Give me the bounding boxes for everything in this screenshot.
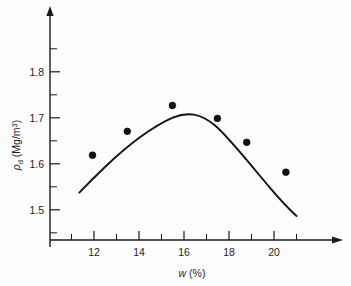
compaction-curve-chart: 1.8 1.7 1.6 1.5 12 14 16 18 20 w (%) [0,0,351,286]
data-point [283,169,290,176]
y-axis-minor-ticks [50,49,57,233]
data-point [214,115,221,122]
x-axis-title-units: (%) [186,267,205,279]
x-axis-title: w (%) [179,267,206,279]
data-point [243,139,250,146]
x-tick-label-14: 14 [133,246,145,258]
data-point [124,128,131,135]
y-axis-title-symbol: ρ [10,164,22,171]
y-axis-title-units-open: (Mg/m [10,127,22,160]
x-tick-label-18: 18 [223,246,235,258]
x-tick-label-16: 16 [178,246,190,258]
data-point [169,102,176,109]
fitted-curve-path [79,114,296,216]
y-axis-title: ρd (Mg/m3) [10,120,25,172]
data-point [89,152,96,159]
y-tick-label-1-6: 1.6 [29,158,44,170]
y-axis-title-units-close: ) [10,120,22,124]
x-axis-major-ticks [94,231,274,240]
figure-container: 1.8 1.7 1.6 1.5 12 14 16 18 20 w (%) [0,0,351,286]
data-points-group [89,102,289,176]
y-tick-label-1-5: 1.5 [29,204,44,216]
y-axis-arrow-icon [46,6,53,16]
y-tick-label-1-8: 1.8 [29,66,44,78]
x-tick-label-20: 20 [268,246,280,258]
x-tick-label-12: 12 [88,246,100,258]
y-tick-label-1-7: 1.7 [29,112,44,124]
x-axis-arrow-icon [332,236,343,243]
